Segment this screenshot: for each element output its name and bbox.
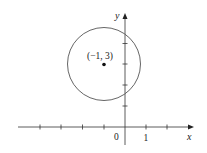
x-axis-arrow-icon xyxy=(188,125,194,130)
coordinate-diagram: (−1, 3) y x 0 1 xyxy=(0,0,207,153)
y-axis-label: y xyxy=(114,10,120,21)
origin-label: 0 xyxy=(114,132,119,142)
x-tick-label-1: 1 xyxy=(144,133,149,143)
y-axis-arrow-icon xyxy=(123,13,128,19)
center-point xyxy=(102,63,106,67)
x-axis-label: x xyxy=(186,131,192,142)
center-label: (−1, 3) xyxy=(87,51,113,62)
